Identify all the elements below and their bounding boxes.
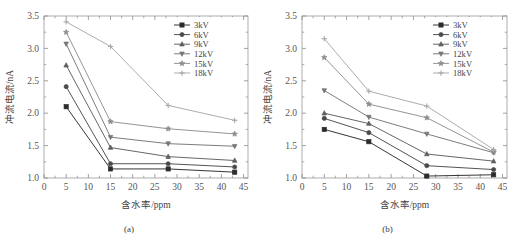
svg-text:40: 40 xyxy=(217,182,227,192)
svg-text:3kV: 3kV xyxy=(453,20,469,30)
svg-text:冲流电流/nA: 冲流电流/nA xyxy=(4,70,15,124)
figure-container: 0510152025303540451.01.52.02.53.03.5含水率/… xyxy=(0,0,517,236)
svg-text:含水率/ppm: 含水率/ppm xyxy=(121,199,171,210)
svg-text:9kV: 9kV xyxy=(453,39,469,49)
svg-text:1.0: 1.0 xyxy=(27,173,39,183)
svg-text:15kV: 15kV xyxy=(453,59,473,69)
svg-text:45: 45 xyxy=(239,182,249,192)
svg-text:3.5: 3.5 xyxy=(27,11,39,21)
chart-panel-b: 0510152025303540451.01.52.02.53.03.5含水率/… xyxy=(258,0,517,236)
svg-text:冲流电流/nA: 冲流电流/nA xyxy=(262,70,273,124)
svg-text:9kV: 9kV xyxy=(194,39,210,49)
svg-text:5: 5 xyxy=(64,182,69,192)
svg-text:1.0: 1.0 xyxy=(285,173,297,183)
svg-text:40: 40 xyxy=(476,182,486,192)
svg-text:30: 30 xyxy=(172,182,182,192)
svg-text:1.5: 1.5 xyxy=(285,141,297,151)
svg-text:2.5: 2.5 xyxy=(27,76,39,86)
svg-text:3.0: 3.0 xyxy=(27,44,39,54)
panel-caption-b: (b) xyxy=(258,224,517,234)
svg-text:0: 0 xyxy=(300,182,305,192)
panel-caption-a: (a) xyxy=(0,224,258,234)
svg-text:20: 20 xyxy=(128,182,138,192)
svg-text:1.5: 1.5 xyxy=(27,141,39,151)
svg-text:2.0: 2.0 xyxy=(285,108,297,118)
svg-text:18kV: 18kV xyxy=(194,68,214,78)
svg-text:18kV: 18kV xyxy=(453,68,473,78)
svg-text:30: 30 xyxy=(431,182,441,192)
svg-text:5: 5 xyxy=(322,182,327,192)
svg-text:12kV: 12kV xyxy=(194,49,214,59)
svg-text:0: 0 xyxy=(42,182,47,192)
series-6kV xyxy=(322,116,496,171)
svg-text:3kV: 3kV xyxy=(194,20,210,30)
svg-text:35: 35 xyxy=(194,182,204,192)
svg-text:10: 10 xyxy=(84,182,94,192)
svg-text:2.5: 2.5 xyxy=(285,76,297,86)
svg-text:20: 20 xyxy=(386,182,396,192)
svg-text:15: 15 xyxy=(106,182,116,192)
chart-plot-a: 0510152025303540451.01.52.02.53.03.5含水率/… xyxy=(0,0,258,236)
svg-text:15kV: 15kV xyxy=(194,59,214,69)
chart-panel-a: 0510152025303540451.01.52.02.53.03.5含水率/… xyxy=(0,0,258,236)
svg-text:2.0: 2.0 xyxy=(27,108,39,118)
svg-text:12kV: 12kV xyxy=(453,49,473,59)
svg-text:15: 15 xyxy=(364,182,374,192)
chart-plot-b: 0510152025303540451.01.52.02.53.03.5含水率/… xyxy=(258,0,517,236)
svg-text:含水率/ppm: 含水率/ppm xyxy=(380,199,430,210)
svg-text:35: 35 xyxy=(453,182,463,192)
svg-text:6kV: 6kV xyxy=(453,30,469,40)
svg-text:10: 10 xyxy=(342,182,352,192)
svg-text:3.0: 3.0 xyxy=(285,44,297,54)
svg-text:25: 25 xyxy=(150,182,160,192)
series-3kV xyxy=(322,127,496,178)
svg-text:25: 25 xyxy=(409,182,419,192)
svg-text:6kV: 6kV xyxy=(194,30,210,40)
svg-text:45: 45 xyxy=(498,182,508,192)
series-12kV xyxy=(322,89,496,156)
svg-text:3.5: 3.5 xyxy=(285,11,297,21)
